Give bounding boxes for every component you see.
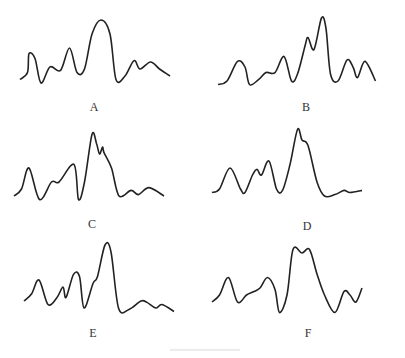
label-a: A xyxy=(84,100,104,115)
waveform-b xyxy=(218,18,398,98)
waveform-a xyxy=(20,20,200,100)
waveform-c-path xyxy=(14,133,164,200)
waveform-e xyxy=(24,245,204,325)
waveform-panel-f xyxy=(212,246,392,326)
label-d: D xyxy=(297,219,317,234)
waveform-f xyxy=(212,246,392,326)
label-e: E xyxy=(83,326,103,341)
waveform-f-path xyxy=(212,247,362,312)
waveform-c xyxy=(14,133,194,213)
figure-caption: ▬▬▬▬▬▬▬▬▬▬ xyxy=(110,345,300,353)
waveform-b-path xyxy=(218,17,376,85)
waveform-e-path xyxy=(24,243,174,313)
waveform-panel-d xyxy=(212,126,392,206)
waveform-d xyxy=(212,126,392,206)
label-c: C xyxy=(82,217,102,232)
waveform-panel-b xyxy=(218,18,398,98)
waveform-panel-c xyxy=(14,133,194,213)
label-b: B xyxy=(296,100,316,115)
waveform-panel-a xyxy=(20,20,200,100)
waveform-a-path xyxy=(20,20,170,83)
waveform-d-path xyxy=(212,129,362,197)
label-f: F xyxy=(298,326,318,341)
waveform-panel-e xyxy=(24,245,204,325)
